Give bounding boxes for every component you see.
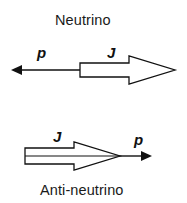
neutrino-momentum-arrow [11, 65, 80, 75]
antineutrino-spin-arrow [25, 142, 120, 170]
antineutrino-momentum-label: p [134, 131, 143, 148]
antineutrino-momentum-arrow [118, 151, 152, 161]
helicity-diagram: Neutrino p J J p Anti-neutrino [0, 0, 187, 203]
antineutrino-title: Anti-neutrino [40, 182, 124, 198]
diagram-arrows [0, 0, 187, 203]
antineutrino-spin-label: J [53, 128, 61, 145]
neutrino-title: Neutrino [55, 12, 111, 28]
neutrino-spin-arrow [80, 56, 175, 84]
neutrino-spin-label: J [107, 44, 115, 61]
neutrino-momentum-label: p [37, 44, 46, 61]
